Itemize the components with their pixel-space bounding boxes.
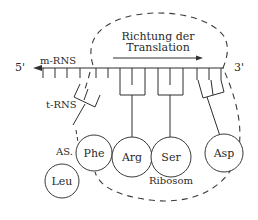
- svg-text:Arg: Arg: [121, 151, 142, 164]
- ribosome-label: Ribosom: [149, 175, 193, 186]
- trna-arriving: [198, 80, 224, 139]
- translation-diagram: Leu Phe Arg Ser Asp Richtung der Transla…: [0, 0, 258, 220]
- three-prime-label: 3': [234, 61, 244, 74]
- amino-acid-leu: Leu: [45, 164, 79, 198]
- ribosome-outline-left: [84, 72, 90, 92]
- amino-acid-asp: Asp: [205, 134, 243, 172]
- trna-arg: [120, 85, 145, 138]
- svg-text:Leu: Leu: [52, 175, 73, 188]
- mrna-bases: [43, 68, 221, 85]
- svg-text:Phe: Phe: [84, 147, 105, 160]
- trna-ser: [158, 85, 183, 138]
- mrna-label: m-RNS: [40, 55, 76, 66]
- direction-arrowhead-icon: [196, 56, 203, 61]
- amino-acid-arg: Arg: [112, 137, 152, 177]
- trna-label: t-RNS: [46, 99, 77, 110]
- five-prime-label: 5': [15, 61, 25, 74]
- amino-acid-phe: Phe: [76, 135, 112, 171]
- amino-acid-ser: Ser: [151, 137, 191, 177]
- svg-text:Asp: Asp: [213, 147, 235, 160]
- title-line-2: Translation: [126, 41, 190, 54]
- amino-acid-label: AS.: [55, 146, 73, 157]
- trna-leaving: [73, 84, 100, 142]
- svg-text:Ser: Ser: [161, 151, 181, 164]
